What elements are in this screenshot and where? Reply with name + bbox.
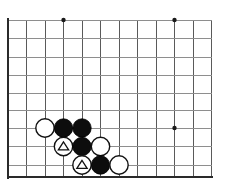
grid-layer [8, 20, 212, 177]
go-board-diagram [0, 0, 229, 188]
star-point-top-right [172, 18, 176, 22]
go-board-svg[interactable] [0, 0, 229, 188]
stone-white-w5[interactable] [110, 156, 128, 174]
stone-black-b4[interactable] [91, 156, 109, 174]
stone-black-b2[interactable] [73, 119, 91, 137]
stone-black-b1[interactable] [54, 119, 72, 137]
stone-black-b3[interactable] [73, 137, 91, 155]
stone-white-w1[interactable] [36, 119, 54, 137]
star-point-center-right [172, 126, 176, 130]
go-board-surface[interactable] [0, 0, 229, 188]
star-point-top-left [61, 18, 65, 22]
board-edge-layer [7, 18, 213, 179]
stone-white-w3[interactable] [91, 137, 109, 155]
stone-white-w2[interactable] [54, 137, 72, 155]
stone-white-w4[interactable] [73, 156, 91, 174]
